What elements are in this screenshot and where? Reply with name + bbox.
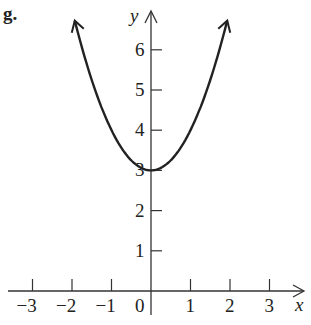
x-tick-label: −2: [56, 296, 76, 315]
x-tick-label: 1: [186, 296, 196, 315]
y-tick-label: 5: [135, 80, 145, 99]
x-tick-label: −1: [96, 296, 116, 315]
x-axis-label: x: [295, 295, 303, 314]
x-tick-label: 2: [225, 296, 235, 315]
plot-canvas: [0, 0, 311, 325]
y-tick-label: 3: [135, 160, 145, 179]
y-tick-label: 2: [135, 201, 145, 220]
y-ticks: [151, 50, 162, 251]
x-tick-label: 0: [135, 296, 145, 315]
y-tick-label: 4: [135, 120, 145, 139]
x-tick-label: 3: [265, 296, 275, 315]
y-axis-label: y: [130, 6, 138, 25]
y-tick-label: 1: [135, 241, 145, 260]
y-tick-label: 6: [135, 40, 145, 59]
x-tick-label: −3: [17, 296, 37, 315]
